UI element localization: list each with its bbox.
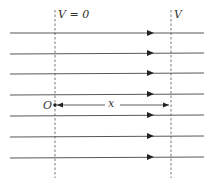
label-v: V — [174, 9, 182, 20]
label-distance: x — [108, 98, 114, 109]
field-lines — [10, 33, 204, 158]
label-v-zero: V = 0 — [58, 9, 89, 20]
field-lines-svg — [0, 0, 212, 183]
arrowheads — [147, 30, 154, 160]
label-origin: O — [43, 100, 52, 111]
field-diagram: V = 0 V O x — [0, 0, 212, 183]
origin-dot — [53, 103, 57, 107]
